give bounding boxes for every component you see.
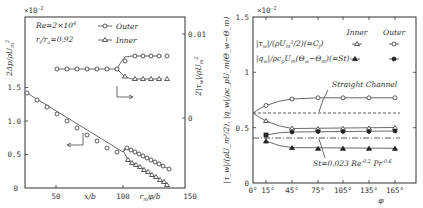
left-chart: ×10-2 0 0.5 1.0 1.5 2Δp/ρUm2 0.01 0 2|τw… bbox=[4, 5, 206, 202]
right-xtick-165: 165° bbox=[386, 186, 404, 195]
annot-straight-channel: Straight Channel bbox=[332, 80, 398, 89]
left-rytick-0: 0 bbox=[188, 114, 193, 123]
annot-st-correlation: St=0.023 Re-0.2 Pr-0.6 bbox=[313, 158, 393, 168]
legend-cf-label: |τw|/(ρUm²/2)(=Cf) bbox=[256, 39, 323, 50]
left-rytick-001: 0.01 bbox=[188, 30, 206, 39]
left-axis-arrow-icon bbox=[67, 133, 83, 147]
right-x-label: φ bbox=[378, 196, 384, 205]
legend-inner-triangle-icon bbox=[103, 38, 108, 42]
left-multiplier: ×10-2 bbox=[24, 5, 44, 15]
left-ytick-15: 1.5 bbox=[7, 83, 21, 92]
left-xtick-100: 100 bbox=[116, 192, 130, 201]
cf-inner-series bbox=[253, 113, 398, 131]
legend-cf-inner-triangle-icon bbox=[355, 42, 360, 46]
left-y-axis-right: 0.01 0 2|τw|/ρUm2 bbox=[182, 30, 206, 123]
legend-st-label: |qw|/ρcpUm(Θw−Θm)(=St) bbox=[256, 54, 349, 65]
right-xtick-75: 75° bbox=[311, 186, 325, 195]
annot-st-leader bbox=[319, 139, 325, 158]
right-xtick-15: 15° bbox=[261, 186, 275, 195]
st-inner-series bbox=[264, 134, 398, 150]
left-x-label-straight: x/b bbox=[84, 192, 96, 201]
right-ytick-15: 1.5 bbox=[235, 13, 249, 22]
legend-header-outer: Outer bbox=[383, 28, 405, 37]
legend-cf-outer-circle-icon bbox=[392, 42, 396, 46]
figure: ×10-2 0 0.5 1.0 1.5 2Δp/ρUm2 0.01 0 2|τw… bbox=[0, 0, 423, 208]
left-xtick-50: 50 bbox=[51, 192, 61, 201]
st-outer-series bbox=[264, 129, 397, 137]
right-xtick-0: 0° bbox=[248, 186, 257, 195]
left-ytick-0: 0 bbox=[13, 184, 18, 193]
right-chart: ×10-2 0 0.5 1 1.5 |τ_w|/(ρU_m²/2), |q_w|… bbox=[222, 5, 416, 205]
left-ytick-10: 1.0 bbox=[7, 117, 21, 126]
right-xtick-45: 45° bbox=[285, 186, 299, 195]
legend-header-inner: Inner bbox=[346, 28, 368, 37]
right-legend: Inner Outer |τw|/(ρUm²/2)(=Cf) |qw|/ρcpU… bbox=[256, 28, 405, 65]
left-x-label-curved: rmφ/b bbox=[140, 192, 161, 202]
annot-straight-leader bbox=[319, 90, 328, 112]
legend-outer-label: Outer bbox=[116, 22, 138, 31]
left-y-label: 2Δp/ρUm2 bbox=[4, 40, 15, 77]
right-xtick-105: 105° bbox=[334, 186, 352, 195]
cf-outer-series bbox=[253, 96, 397, 113]
left-shear-series bbox=[55, 54, 170, 81]
param-re: Re=2×104 bbox=[35, 20, 76, 30]
left-xtick-150: 150 bbox=[183, 192, 197, 201]
left-legend: Outer Inner bbox=[98, 22, 138, 45]
right-multiplier: ×10-2 bbox=[257, 5, 277, 15]
left-pressure-series bbox=[25, 91, 171, 187]
right-axis-arrow-icon bbox=[117, 86, 133, 99]
right-y-label: |τ_w|/(ρU_m²/2), |q_w|/ρc_pU_m(Θ_w−Θ_m) bbox=[222, 17, 231, 184]
left-ytick-05: 0.5 bbox=[7, 150, 21, 159]
left-y-axis: 0 0.5 1.0 1.5 2Δp/ρUm2 bbox=[4, 40, 28, 193]
legend-inner-label: Inner bbox=[115, 36, 137, 45]
right-xtick-135: 135° bbox=[360, 186, 378, 195]
right-ytick-05: 0.5 bbox=[235, 124, 249, 133]
right-ytick-1: 1 bbox=[244, 68, 249, 77]
left-right-y-label: 2|τw|/ρUm2 bbox=[193, 56, 204, 96]
legend-st-outer-filled-circle-icon bbox=[392, 57, 396, 61]
legend-outer-circle-icon bbox=[103, 24, 107, 28]
legend-st-inner-filled-triangle-icon bbox=[353, 57, 358, 61]
param-radius-ratio: ri/ro=0.92 bbox=[36, 35, 74, 45]
